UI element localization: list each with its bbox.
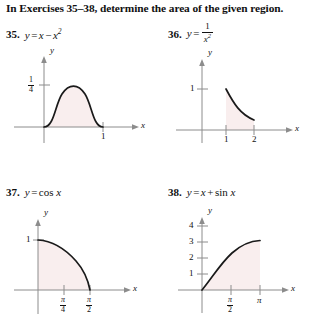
- y-axis-label-36: y: [208, 48, 212, 57]
- problem-36-number: 36.: [168, 28, 182, 40]
- x-tick-denominator-2-37: 2: [86, 305, 92, 315]
- y-tick-label-2-38: 2: [189, 253, 194, 262]
- shaded-area-35: [44, 86, 103, 127]
- y-axis-arrow-38: [199, 217, 205, 224]
- y-tick-label-3-38: 3: [189, 237, 194, 246]
- x-tick-label-1-36: 1: [224, 135, 229, 144]
- y-axis-label-37: y: [44, 208, 48, 217]
- y-tick-label-1-36: 1: [190, 84, 195, 93]
- problem-37: 37. y=cos x x y 1 π: [6, 184, 156, 322]
- problem-35: 35. y=x−x2 x y 1 1 4: [6, 26, 156, 150]
- problem-37-number: 37.: [6, 186, 20, 198]
- y-tick-label-quarter-35: 1 4: [28, 76, 34, 94]
- x-axis-label-36: x: [295, 124, 299, 133]
- x-tick-label-pi-38: π: [257, 296, 262, 305]
- y-axis-arrow-36: [199, 59, 205, 66]
- problem-38-header: 38. y=x+sin x: [168, 184, 318, 200]
- problem-35-equation: y=x−x2: [25, 27, 62, 41]
- y-axis-arrow-35: [41, 56, 47, 63]
- problem-37-header: 37. y=cos x: [6, 184, 156, 200]
- x-tick-denominator-2-38: 2: [227, 305, 233, 315]
- y-axis-label-35: y: [50, 46, 54, 55]
- problem-35-graph: x y 1 1 4: [6, 42, 156, 150]
- x-tick-denominator-4-37: 4: [60, 305, 66, 315]
- x-tick-label-1-35: 1: [101, 132, 106, 141]
- x-tick-label-pi-over-4-37: π 4: [60, 296, 66, 314]
- y-tick-label-1-37: 1: [26, 235, 31, 244]
- problem-37-equation: y=cos x: [25, 186, 61, 198]
- problem-38-equation: y=x+sin x: [187, 186, 236, 198]
- problem-38-number: 38.: [168, 186, 182, 198]
- problem-36-graph: x y 1 1 2: [168, 42, 318, 150]
- x-axis-arrow-37: [124, 287, 131, 293]
- x-tick-label-pi-over-2-38: π 2: [227, 296, 233, 314]
- x-tick-numerator-pi-38: π: [227, 296, 233, 305]
- graph-37-svg: [6, 200, 156, 322]
- y-tick-label-4-38: 4: [189, 221, 194, 230]
- y-axis-label-38: y: [208, 206, 212, 215]
- shaded-area-38: [202, 241, 260, 291]
- x-axis-arrow-35: [132, 124, 139, 130]
- y-tick-numerator-35: 1: [28, 76, 34, 85]
- problem-36: 36. y=1x2 x y 1 1 2: [168, 26, 318, 150]
- x-tick-label-pi-over-2-37: π 2: [86, 296, 92, 314]
- y-axis-arrow-37: [35, 219, 41, 226]
- x-tick-label-2-36: 2: [252, 135, 257, 144]
- x-axis-label-38: x: [291, 284, 295, 293]
- y-tick-denominator-35: 4: [28, 85, 34, 95]
- graph-35-svg: [6, 42, 156, 150]
- x-tick-numerator-pi2-37: π: [86, 296, 92, 305]
- shaded-area-37: [38, 240, 90, 290]
- x-axis-label-35: x: [141, 121, 145, 130]
- problem-37-graph: x y 1 π 4 π 2: [6, 200, 156, 322]
- fraction-one-over-x-squared: 1x2: [202, 22, 213, 44]
- textbook-page: In Exercises 35–38, determine the area o…: [0, 0, 325, 324]
- graph-36-svg: [168, 42, 318, 150]
- problem-35-header: 35. y=x−x2: [6, 26, 156, 42]
- problem-35-number: 35.: [6, 28, 20, 40]
- x-axis-arrow-38: [282, 287, 289, 293]
- problem-36-header: 36. y=1x2: [168, 26, 318, 42]
- x-axis-arrow-36: [286, 127, 293, 133]
- fraction-numerator: 1: [203, 22, 212, 32]
- problem-38: 38. y=x+sin x: [168, 184, 318, 322]
- problem-38-graph: x y 1 2 3 4 π 2 π: [168, 200, 318, 322]
- x-axis-label-37: x: [133, 284, 137, 293]
- exercise-instruction: In Exercises 35–38, determine the area o…: [6, 2, 322, 14]
- y-tick-label-1-38: 1: [189, 269, 194, 278]
- x-tick-numerator-pi-37: π: [60, 296, 66, 305]
